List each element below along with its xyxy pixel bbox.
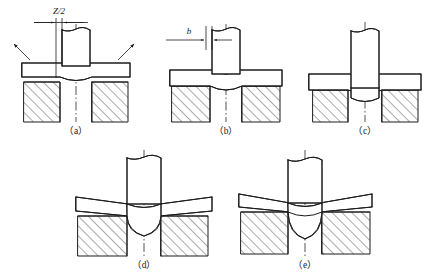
die-left-e	[241, 212, 288, 254]
panel-caption-a: （a）	[64, 125, 88, 136]
punch-b	[212, 27, 240, 74]
die-left-a	[24, 82, 60, 122]
die-right-e	[322, 212, 370, 254]
panel-caption-b: （b）	[214, 125, 239, 136]
die-left-b	[172, 86, 210, 122]
burnish-dimension-label: b	[187, 26, 192, 36]
punch-c	[351, 28, 379, 88]
die-right-c	[382, 90, 418, 122]
blanking-process-diagram: Z/2 （a）	[0, 0, 439, 279]
panel-caption-c: （c）	[353, 125, 377, 136]
punch-e	[288, 157, 322, 203]
slug-c	[351, 88, 379, 102]
diagram-canvas: Z/2 （a）	[0, 0, 439, 279]
panel-caption-e: （e）	[293, 259, 317, 270]
panel-caption-d: （d）	[132, 259, 157, 270]
punch-a	[62, 27, 90, 66]
die-right-d	[161, 216, 208, 256]
die-left-d	[78, 216, 127, 256]
die-right-b	[242, 86, 280, 122]
clearance-dimension-label: Z/2	[53, 6, 66, 16]
punch-d	[127, 155, 161, 204]
die-right-a	[92, 82, 128, 122]
die-left-c	[313, 90, 348, 122]
